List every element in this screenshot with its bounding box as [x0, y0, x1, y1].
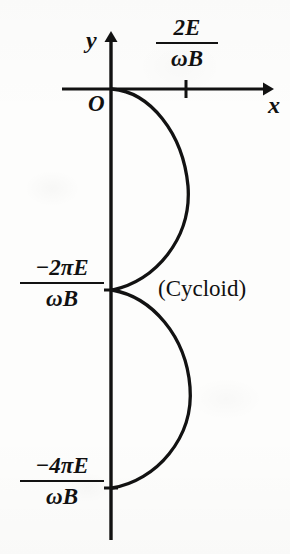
fraction-bar — [156, 42, 218, 44]
x-tick-numerator: 2E — [156, 16, 218, 41]
y-tick-denominator: ωB — [20, 286, 104, 311]
cycloid-figure: y x O 2E ωB −2πE ωB −4πE ωB (Cycloid) — [0, 0, 290, 554]
y-tick-denominator: ωB — [20, 484, 104, 509]
y-tick-label-neg-2pi-E-over-omega-B: −2πE ωB — [20, 256, 104, 311]
y-axis-label: y — [86, 28, 97, 52]
x-axis-label: x — [268, 93, 280, 117]
cycloid-annotation: (Cycloid) — [158, 276, 246, 302]
origin-label: O — [88, 92, 105, 115]
y-axis — [104, 31, 118, 540]
x-tick-label-2E-over-omega-B: 2E ωB — [156, 16, 218, 71]
y-tick-numerator: −2πE — [20, 256, 104, 281]
y-tick-numerator: −4πE — [20, 454, 104, 479]
fraction-bar — [20, 282, 104, 284]
fraction-bar — [20, 480, 104, 482]
x-tick-denominator: ωB — [156, 46, 218, 71]
y-tick-label-neg-4pi-E-over-omega-B: −4πE ωB — [20, 454, 104, 509]
